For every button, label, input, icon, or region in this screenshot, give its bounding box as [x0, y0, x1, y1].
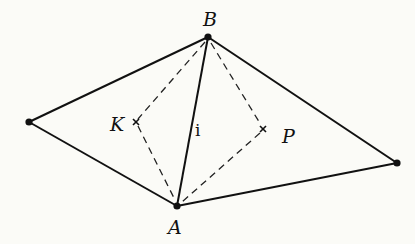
cross-marker-P — [260, 126, 266, 132]
label-edge-i: i — [195, 120, 201, 140]
edge-left-A — [29, 122, 177, 206]
edge-left-B — [29, 37, 208, 122]
label-K: K — [109, 113, 126, 135]
vertex-A — [173, 202, 180, 209]
vertex-right — [393, 159, 400, 166]
vertex-left — [25, 118, 32, 125]
diagram-canvas: B A K P i — [0, 0, 415, 244]
label-A: A — [166, 216, 182, 238]
edge-B-right — [208, 37, 397, 163]
label-P: P — [281, 125, 296, 147]
edge-A-B-i — [177, 37, 208, 206]
edge-A-right — [177, 163, 397, 206]
dashed-edge-K-A — [138, 126, 175, 200]
cross-marker-K — [133, 119, 139, 125]
label-B: B — [202, 8, 217, 30]
vertex-B — [204, 33, 211, 40]
